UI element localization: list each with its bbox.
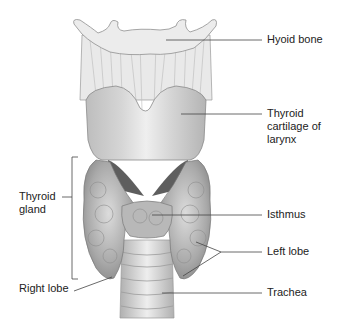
thyroid-diagram: Hyoid bone Thyroid cartilage of larynx T…	[0, 0, 341, 320]
trachea	[120, 240, 174, 318]
label-right-lobe: Right lobe	[19, 282, 69, 295]
isthmus	[122, 201, 173, 238]
label-isthmus: Isthmus	[267, 208, 306, 221]
leader-right-lobe	[74, 277, 112, 291]
label-trachea: Trachea	[267, 286, 307, 299]
label-thyroid-gland: Thyroid gland	[19, 190, 56, 216]
anatomy-illustration	[0, 0, 341, 320]
thyroid-gland-bracket	[72, 157, 78, 279]
label-hyoid-bone: Hyoid bone	[267, 33, 323, 46]
label-thyroid-cartilage: Thyroid cartilage of larynx	[267, 107, 321, 146]
label-left-lobe: Left lobe	[267, 245, 309, 258]
